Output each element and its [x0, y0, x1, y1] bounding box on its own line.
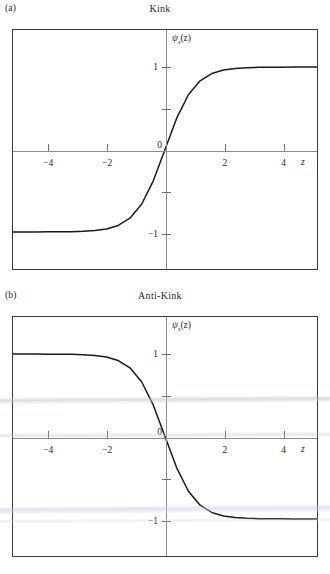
panel-title-kink-text: Kink	[149, 3, 170, 14]
x-tick-label: 4	[281, 158, 286, 168]
panel-kink: (a) Kink −4−224−101zψs(z)	[0, 0, 330, 287]
x-tick-label: −2	[102, 445, 112, 455]
y-tick	[162, 192, 171, 193]
panel-anti-kink: (b) Anti-Kink −4−224−101zψs(z)	[0, 287, 330, 574]
y-tick-label: −1	[148, 229, 158, 239]
y-tick-label: 0	[157, 427, 162, 437]
x-tick-label: −4	[43, 158, 53, 168]
panel-title-anti-kink: Anti-Kink	[0, 290, 330, 301]
x-tick-label: 4	[281, 445, 286, 455]
y-tick	[162, 354, 171, 355]
y-tick-label: 0	[157, 140, 162, 150]
y-tick	[162, 109, 171, 110]
plot-area-kink: −4−224−101zψs(z)	[12, 29, 318, 270]
x-tick-label: 2	[222, 158, 227, 168]
x-tick-label: −4	[43, 445, 53, 455]
y-tick-label: −1	[148, 516, 158, 526]
y-tick	[162, 479, 171, 480]
x-tick	[225, 144, 226, 151]
x-tick	[225, 431, 226, 438]
x-tick	[107, 144, 108, 151]
y-tick-label: 1	[153, 349, 158, 359]
x-axis-title: z	[301, 444, 305, 454]
plot-area-anti-kink: −4−224−101zψs(z)	[12, 316, 318, 557]
x-axis-line	[13, 438, 317, 439]
x-tick	[48, 431, 49, 438]
y-axis-title: ψs(z)	[172, 33, 191, 45]
x-tick-label: 2	[222, 445, 227, 455]
y-tick	[162, 67, 171, 68]
two-panel-figure: (a) Kink −4−224−101zψs(z) (b) Anti-Kink …	[0, 0, 330, 574]
x-axis-title: z	[301, 157, 305, 167]
y-tick-label: 1	[153, 62, 158, 72]
x-tick-label: −2	[102, 158, 112, 168]
x-tick	[284, 431, 285, 438]
x-axis-line	[13, 151, 317, 152]
x-tick	[284, 144, 285, 151]
y-tick	[162, 396, 171, 397]
y-tick	[162, 521, 171, 522]
x-tick	[48, 144, 49, 151]
panel-title-anti-kink-text: Anti-Kink	[138, 290, 182, 301]
x-tick	[107, 431, 108, 438]
panel-title-kink: Kink	[0, 3, 330, 14]
y-tick	[162, 234, 171, 235]
y-axis-title: ψs(z)	[172, 320, 191, 332]
